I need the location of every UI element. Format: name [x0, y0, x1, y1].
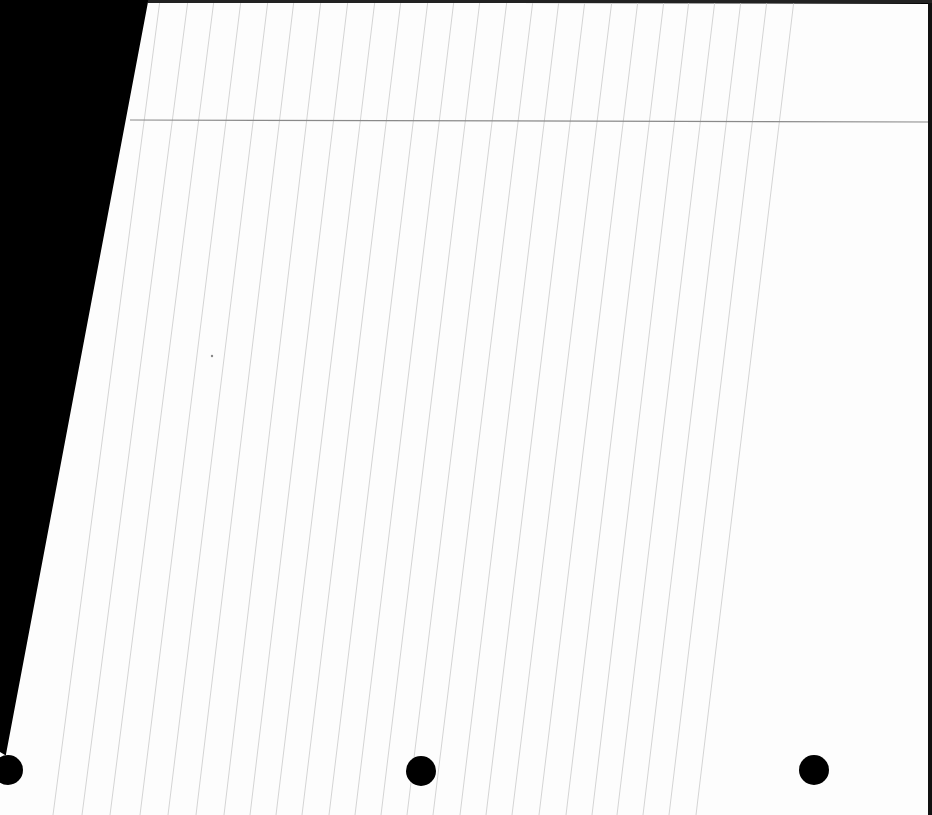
punch-hole [406, 756, 436, 786]
right-edge-shadow [928, 0, 932, 815]
speck [211, 355, 213, 357]
punch-hole [799, 755, 829, 785]
top-edge-shadow [148, 0, 932, 3]
lined-paper-scan [0, 0, 932, 815]
